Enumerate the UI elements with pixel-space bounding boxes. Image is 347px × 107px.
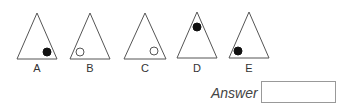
- filled-circle-icon: [234, 47, 242, 55]
- option-b: [70, 13, 110, 59]
- hollow-circle-icon: [76, 48, 84, 56]
- option-e: [229, 12, 269, 58]
- option-label: A: [33, 63, 40, 74]
- answer-label: Answer: [211, 86, 258, 100]
- triangle-shape: [177, 12, 217, 58]
- option-a: [17, 13, 57, 59]
- option-d: [177, 12, 217, 58]
- option-label: C: [141, 63, 149, 74]
- triangle-shape: [124, 13, 166, 59]
- option-label: D: [193, 63, 201, 74]
- filled-circle-icon: [193, 23, 201, 31]
- filled-circle-icon: [43, 48, 51, 56]
- option-c: [124, 13, 166, 59]
- answer-input[interactable]: [261, 81, 336, 103]
- hollow-circle-icon: [150, 47, 158, 55]
- option-label: E: [245, 63, 252, 74]
- option-label: B: [86, 63, 93, 74]
